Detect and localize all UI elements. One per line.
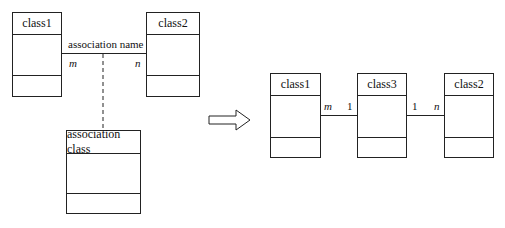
right-class3-box: class3 xyxy=(357,73,407,158)
hollow-right-arrow-icon xyxy=(0,0,505,228)
link1-mult-m: m xyxy=(324,100,332,112)
right-class2-divider xyxy=(445,137,493,138)
right-class1-box: class1 xyxy=(270,73,321,158)
link2-line xyxy=(407,115,444,116)
right-class2-box: class2 xyxy=(444,73,494,158)
right-class2-name: class2 xyxy=(445,74,493,96)
link2-mult-1: 1 xyxy=(412,100,418,112)
link2-mult-n: n xyxy=(434,100,440,112)
right-class1-name: class1 xyxy=(271,74,320,96)
link1-line xyxy=(321,115,357,116)
right-class3-divider xyxy=(358,137,406,138)
right-class3-name: class3 xyxy=(358,74,406,96)
right-class1-divider xyxy=(271,137,320,138)
link1-mult-1: 1 xyxy=(347,100,353,112)
